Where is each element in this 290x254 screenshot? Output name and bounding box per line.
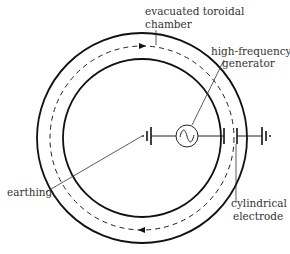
- label-generator-2: generator: [222, 57, 276, 69]
- path-arrow-top: [139, 43, 146, 49]
- label-chamber-2: chamber: [145, 18, 193, 30]
- earth-dot-left: [142, 135, 144, 137]
- label-electrode-1: cylindrical: [231, 197, 288, 209]
- particle-path: [50, 46, 234, 230]
- leader-earthing: [46, 136, 142, 192]
- label-earthing: earthing: [7, 186, 53, 198]
- outer-chamber-wall: [37, 33, 247, 243]
- label-electrode-2: electrode: [233, 210, 283, 222]
- label-chamber-1: evacuated toroidal: [145, 5, 245, 17]
- earth-dot-right: [269, 135, 271, 137]
- toroidal-chamber-diagram: evacuated toroidal chamber high-frequenc…: [0, 0, 290, 254]
- path-arrow-bottom: [138, 227, 145, 233]
- label-generator-1: high-frequency: [211, 45, 290, 57]
- leader-generator: [192, 60, 224, 125]
- circuit: [142, 125, 271, 147]
